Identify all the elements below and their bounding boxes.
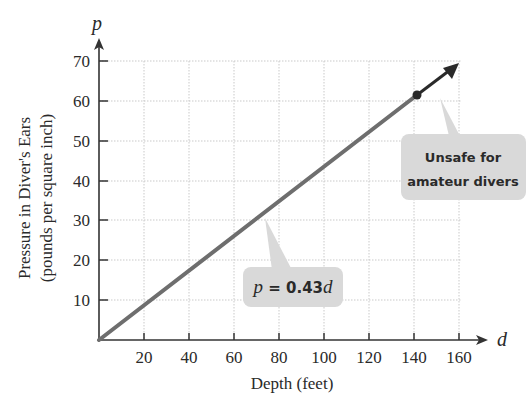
unsafe-arrow-head-icon [443,63,459,79]
unsafe-callout-line2: amateur divers [407,174,519,189]
x-tick-label: 60 [226,348,243,367]
equation-callout-pointer [265,218,292,270]
x-tick-label: 100 [311,348,337,367]
unsafe-callout-line1: Unsafe for [425,150,502,165]
y-tick-label: 20 [73,251,90,270]
x-tick-label: 40 [181,348,198,367]
y-tick-label: 70 [73,52,90,71]
unsafe-callout-pointer [440,98,460,136]
y-tick-label: 30 [73,211,90,230]
equation-label: p = 0.43d [251,276,333,297]
x-tick-label: 20 [136,348,153,367]
x-tick-label: 160 [446,348,472,367]
equation-variable: d [323,276,333,297]
equation-lhs: p [251,276,263,297]
x-tick-label: 140 [401,348,427,367]
equation-equals: = [263,279,286,297]
y-ticks [99,61,108,300]
equation-coefficient: 0.43 [286,279,323,297]
x-axis-title: Depth (feet) [251,374,334,393]
y-axis-title-line2: (pounds per square inch) [37,114,56,283]
x-tick-labels: 20 40 60 80 100 120 140 160 [136,348,472,367]
y-tick-label: 10 [73,291,90,310]
y-tick-label: 50 [73,132,90,151]
y-axis-title-line1: Pressure in Diver's Ears [15,117,34,279]
y-tick-labels: 10 20 30 40 50 60 70 [73,52,90,310]
y-axis-variable: p [90,12,102,35]
unsafe-arrow-line [417,70,450,95]
unsafe-callout-box [401,134,526,200]
x-axis-variable: d [497,328,508,350]
x-tick-label: 120 [356,348,382,367]
x-tick-label: 80 [271,348,288,367]
y-tick-label: 60 [73,92,90,111]
y-tick-label: 40 [73,172,90,191]
pressure-depth-chart: 20 40 60 80 100 120 140 160 10 20 30 40 … [0,0,530,409]
unsafe-threshold-point [413,91,422,100]
x-ticks [144,333,459,340]
